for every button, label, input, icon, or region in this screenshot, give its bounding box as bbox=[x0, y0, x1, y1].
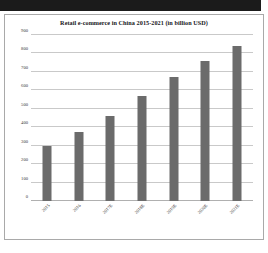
bar[interactable] bbox=[42, 146, 51, 201]
x-axis-tick-label: 2018E bbox=[133, 203, 145, 215]
y-axis-tick-label: 900 bbox=[21, 28, 28, 33]
bar[interactable] bbox=[233, 46, 242, 201]
y-axis-tick-label: 500 bbox=[21, 101, 28, 106]
x-axis-tick-label: 2016 bbox=[72, 203, 82, 213]
bar-slot: 2018E bbox=[126, 35, 158, 201]
bar[interactable] bbox=[74, 132, 83, 201]
x-axis-tick-label: 2020E bbox=[197, 203, 209, 215]
bar[interactable] bbox=[106, 116, 115, 201]
plot-area: 0100200300400500600700800900 20152016201… bbox=[31, 35, 253, 201]
chart-card: Retail e-commerce in China 2015-2021 (in… bbox=[4, 14, 264, 240]
page-bottom-margin bbox=[0, 240, 268, 253]
y-axis-tick-label: 400 bbox=[21, 120, 28, 125]
top-dark-band bbox=[0, 0, 268, 11]
y-axis-tick-label: 300 bbox=[21, 138, 28, 143]
bar[interactable] bbox=[137, 96, 146, 201]
y-axis-tick-label: 700 bbox=[21, 64, 28, 69]
y-axis-tick-label: 800 bbox=[21, 46, 28, 51]
y-axis-tick-label: 200 bbox=[21, 157, 28, 162]
x-axis-tick-label: 2019E bbox=[165, 203, 177, 215]
bars-layer: 201520162017E2018E2019E2020E2021E bbox=[31, 35, 253, 201]
bar[interactable] bbox=[201, 61, 210, 201]
y-axis-tick-label: 100 bbox=[21, 175, 28, 180]
y-axis-tick-label: 0 bbox=[26, 194, 28, 199]
x-axis-tick-label: 2021E bbox=[229, 203, 241, 215]
chart-title: Retail e-commerce in China 2015-2021 (in… bbox=[5, 19, 263, 26]
bar-slot: 2017E bbox=[94, 35, 126, 201]
bar-slot: 2021E bbox=[221, 35, 253, 201]
bar-slot: 2019E bbox=[158, 35, 190, 201]
bar-slot: 2020E bbox=[190, 35, 222, 201]
top-band-white-sliver bbox=[261, 0, 268, 11]
bar[interactable] bbox=[169, 77, 178, 201]
x-axis-tick-label: 2017E bbox=[102, 203, 114, 215]
bar-slot: 2016 bbox=[63, 35, 95, 201]
bar-slot: 2015 bbox=[31, 35, 63, 201]
x-axis-tick-label: 2015 bbox=[40, 203, 50, 213]
y-axis-tick-label: 600 bbox=[21, 83, 28, 88]
